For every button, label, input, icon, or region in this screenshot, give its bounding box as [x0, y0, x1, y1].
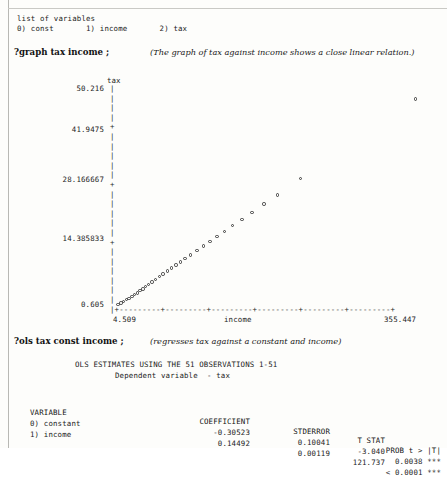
y-tick-label-4: 0.605	[18, 300, 104, 309]
cell-prob: 0.0038 ***	[385, 457, 441, 467]
y-tick-label-3: 14.385833	[18, 234, 104, 243]
y-axis-ascii: | | | | + | | | | | + | | | | | + | | | …	[110, 84, 114, 305]
graph-command-note: (The graph of tax against income shows a…	[150, 47, 415, 57]
data-point	[299, 177, 302, 180]
data-point	[414, 97, 417, 100]
regression-table: VARIABLE COEFFICIENT STDERROR T STAT PRO…	[0, 398, 447, 431]
y-tick-label-2: 28.166667	[18, 175, 104, 184]
cell-tstat: -3.040	[330, 447, 385, 457]
x-tick-label-max: 355.447	[384, 315, 416, 325]
table-row: 1) income 0.14492 0.00119 121.737 < 0.00…	[0, 420, 447, 431]
data-point	[170, 266, 173, 269]
data-point	[179, 260, 182, 263]
data-point	[195, 249, 198, 252]
data-point	[262, 202, 265, 205]
data-point	[208, 240, 211, 243]
column-header-prob: PROB t > |T|	[385, 446, 441, 456]
ols-command: ?ols tax const income ;	[14, 336, 124, 346]
table-row: 0) constant -0.30523 0.10041 -3.040 0.00…	[0, 409, 447, 420]
data-point	[231, 224, 234, 227]
variables-line: 0) const 1) income 2) tax	[17, 24, 187, 34]
data-point	[202, 244, 205, 247]
ols-title-line-2: Dependent variable - tax	[115, 371, 230, 381]
cell-prob: < 0.0001 ***	[385, 468, 441, 478]
data-point	[150, 280, 153, 283]
data-point	[183, 257, 186, 260]
ols-title-line-1: OLS ESTIMATES USING THE 51 OBSERVATIONS …	[75, 360, 277, 370]
cell-stderror: 0.10041	[255, 438, 330, 448]
data-point	[223, 230, 226, 233]
data-point	[166, 269, 169, 272]
x-tick-label-min: 4.509	[113, 315, 136, 325]
data-point	[215, 235, 218, 238]
data-point	[161, 272, 164, 275]
data-point	[189, 253, 192, 256]
cell-tstat: 121.737	[330, 458, 385, 468]
cell-variable: 1) income	[30, 430, 150, 440]
y-tick-label-0: 50.216	[18, 84, 104, 93]
data-point	[154, 278, 157, 281]
cell-stderror: 0.00119	[255, 449, 330, 459]
table-header-row: VARIABLE COEFFICIENT STDERROR T STAT PRO…	[0, 398, 447, 409]
data-point	[240, 218, 243, 221]
data-point	[174, 263, 177, 266]
cell-coefficient: 0.14492	[150, 439, 250, 449]
x-axis-ascii: |+---------+---------+---------+--------…	[110, 305, 395, 314]
ols-command-note: (regresses tax against a constant and in…	[150, 336, 341, 346]
page-top-rule	[8, 8, 447, 9]
graph-command: ?graph tax income ;	[14, 47, 109, 57]
x-axis-title: income	[224, 315, 252, 325]
column-header-tstat: T STAT	[330, 436, 385, 446]
data-point	[250, 211, 253, 214]
data-point	[276, 193, 279, 196]
variables-header: list of variables	[17, 14, 95, 24]
y-tick-label-1: 41.9475	[18, 125, 104, 134]
scatter-plot: tax 50.216 41.9475 28.166667 14.385833 0…	[0, 62, 447, 314]
